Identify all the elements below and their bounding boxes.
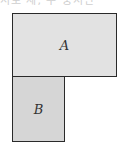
rectangle-a-label: A	[60, 38, 69, 53]
rectangle-b-label: B	[34, 102, 44, 117]
cropped-header-text: 서로 세, 주 중서만	[0, 0, 127, 5]
rectangle-a: A	[12, 13, 117, 77]
rectangle-b: B	[12, 76, 65, 142]
